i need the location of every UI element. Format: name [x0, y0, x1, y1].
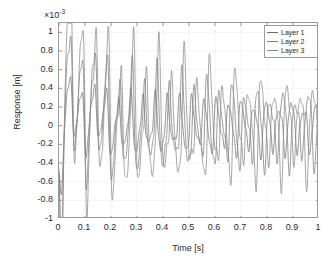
y-tick-label: 0 [48, 120, 53, 130]
x-tick-label: 0.3 [130, 222, 143, 232]
y-tick-label: 0.8 [40, 45, 53, 55]
x-tick-label: 0.4 [156, 222, 169, 232]
legend-label: Layer 2 [281, 37, 304, 46]
data-series-line [59, 36, 318, 218]
x-axis-tick-labels: 00.10.20.30.40.50.60.70.80.91 [0, 222, 330, 238]
legend-item[interactable]: Layer 2 [267, 37, 315, 46]
y-tick-label: 1 [48, 26, 53, 36]
x-tick-label: 0.7 [234, 222, 247, 232]
legend[interactable]: Layer 1Layer 2Layer 3 [264, 25, 318, 58]
legend-color-swatch [267, 32, 278, 33]
y-tick-label: -0.6 [37, 176, 53, 186]
x-tick-label: 0.1 [78, 222, 91, 232]
legend-color-swatch [267, 50, 278, 51]
x-tick-label: 1 [315, 222, 320, 232]
x-tick-label: 0.5 [182, 222, 195, 232]
legend-item[interactable]: Layer 1 [267, 28, 315, 37]
legend-label: Layer 1 [281, 28, 304, 37]
x-tick-label: 0.8 [260, 222, 273, 232]
y-tick-label: 0.4 [40, 82, 53, 92]
x-tick-label: 0.6 [208, 222, 221, 232]
y-tick-label: 0.6 [40, 64, 53, 74]
x-axis-title: Time [s] [58, 243, 318, 253]
y-tick-label: -0.8 [37, 194, 53, 204]
figure-canvas: ×10-3 Response [m] -1-0.8-0.6-0.4-0.200.… [0, 0, 330, 271]
x-tick-label: 0.9 [286, 222, 299, 232]
y-tick-label: -0.2 [37, 138, 53, 148]
legend-label: Layer 3 [281, 46, 304, 55]
y-tick-label: 0.2 [40, 101, 53, 111]
legend-item[interactable]: Layer 3 [267, 46, 315, 55]
x-tick-label: 0 [55, 222, 60, 232]
y-tick-label: -0.4 [37, 157, 53, 167]
x-tick-label: 0.2 [104, 222, 117, 232]
y-axis-multiplier-exponent: -3 [59, 8, 65, 15]
legend-color-swatch [267, 41, 278, 42]
